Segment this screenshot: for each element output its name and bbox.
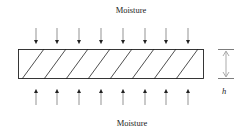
bottom-arrows [36, 91, 188, 105]
thickness-dimension [218, 50, 234, 79]
bottom-moisture-label: Moisture [117, 118, 148, 128]
thickness-label: h [222, 86, 226, 96]
top-arrows [36, 28, 188, 42]
hatch-lines [22, 49, 198, 79]
moisture-diagram: Moisture h [0, 0, 247, 132]
top-moisture-label: Moisture [116, 5, 147, 15]
material-layer [19, 49, 204, 79]
